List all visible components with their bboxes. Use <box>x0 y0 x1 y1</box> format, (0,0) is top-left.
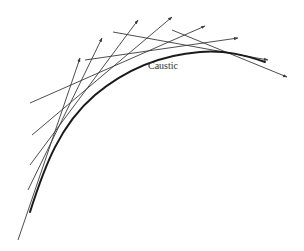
caustic-diagram <box>0 0 304 251</box>
caustic-label: Caustic <box>148 60 178 71</box>
ray-3 <box>30 20 138 165</box>
light-rays <box>18 17 287 240</box>
ray-6 <box>85 38 238 60</box>
ray-2 <box>28 38 102 190</box>
caustic-curve <box>30 52 265 212</box>
ray-4 <box>32 17 172 135</box>
ray-5 <box>30 26 205 103</box>
